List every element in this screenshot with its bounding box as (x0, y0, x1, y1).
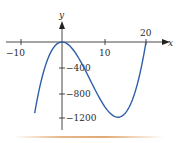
y-tick-label: −1200 (66, 113, 97, 123)
y-tick-label: −800 (66, 89, 91, 99)
y-axis-label: y (58, 10, 65, 20)
chart: −10 10 20 −400 −800 −1200 x y (0, 0, 176, 143)
x-tick-label: 20 (140, 28, 152, 38)
x-tick-label: −10 (6, 48, 25, 58)
x-axis-label: x (168, 38, 173, 48)
bottom-divider (14, 136, 164, 138)
x-tick-label: 10 (99, 48, 111, 58)
y-axis-arrow-icon (59, 21, 65, 29)
y-tick-label: −400 (66, 63, 91, 73)
data-curve (35, 42, 146, 117)
